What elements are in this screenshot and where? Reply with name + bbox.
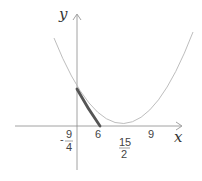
graph-canvas: y x 6 9 15 2 - 9 4 bbox=[0, 0, 202, 181]
root-6-label: 6 bbox=[95, 128, 101, 140]
y-value-sign: - bbox=[60, 133, 64, 145]
y-value-denominator: 4 bbox=[66, 141, 72, 153]
y-axis-label: y bbox=[58, 5, 68, 23]
root-9-label: 9 bbox=[148, 128, 154, 140]
vertex-x-denominator: 2 bbox=[121, 148, 127, 160]
y-value-numerator: 9 bbox=[66, 128, 72, 140]
vertex-x-numerator: 15 bbox=[119, 136, 131, 148]
highlighted-segment bbox=[77, 89, 100, 126]
parabola-curve bbox=[54, 32, 193, 124]
x-axis-label: x bbox=[174, 128, 183, 146]
